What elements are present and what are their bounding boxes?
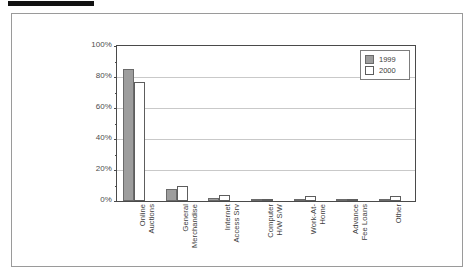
- bar: [166, 189, 177, 201]
- x-axis-category-label: Advance Fee Loans: [352, 204, 369, 279]
- bar-group: [336, 46, 358, 201]
- figure-frame: 0%20%40%60%80%100% Online AuctionsGenera…: [11, 13, 463, 267]
- x-axis-category-label: Online Auctions: [139, 204, 156, 279]
- y-axis-tick-mark: [114, 46, 117, 47]
- bar-group: [123, 46, 145, 201]
- bar-group: [208, 46, 230, 201]
- x-axis-category-label: Work-At- Home: [310, 204, 327, 279]
- legend-entry: 1999: [365, 54, 405, 65]
- bar: [347, 199, 358, 201]
- redaction-bar: [8, 1, 94, 6]
- y-axis-tick-label: 100%: [72, 41, 112, 49]
- bar-group: [294, 46, 316, 201]
- x-axis-category-label: Computer H/W S/W: [267, 204, 284, 279]
- bar: [208, 198, 219, 201]
- chart-legend: 1999 2000: [360, 50, 410, 80]
- y-axis-tick-mark: [114, 170, 117, 171]
- bar: [219, 195, 230, 201]
- y-axis-minor-tick-mark: [115, 186, 117, 187]
- bar-group: [166, 46, 188, 201]
- bar: [177, 186, 188, 202]
- bar: [262, 199, 273, 201]
- legend-swatch-1999-icon: [365, 55, 374, 64]
- y-axis-minor-tick-mark: [115, 155, 117, 156]
- y-axis-minor-tick-mark: [115, 93, 117, 94]
- y-axis-tick-mark: [114, 77, 117, 78]
- y-axis-tick-label: 40%: [72, 134, 112, 142]
- y-axis-tick-label: 20%: [72, 165, 112, 173]
- bar: [251, 199, 262, 201]
- y-axis-tick-mark: [114, 139, 117, 140]
- y-axis-minor-tick-mark: [115, 124, 117, 125]
- legend-label-1999: 1999: [379, 55, 396, 64]
- legend-swatch-2000-icon: [365, 66, 374, 75]
- y-axis-tick-label: 0%: [72, 196, 112, 204]
- bar: [390, 196, 401, 201]
- y-axis-tick-mark: [114, 108, 117, 109]
- y-axis-tick-label: 60%: [72, 103, 112, 111]
- x-axis-category-label: Other: [395, 204, 404, 279]
- legend-entry: 2000: [365, 65, 405, 76]
- x-axis-category-label: General Merchandise: [182, 204, 199, 279]
- bar: [123, 69, 134, 201]
- bar-group: [251, 46, 273, 201]
- bar: [336, 199, 347, 201]
- legend-label-2000: 2000: [379, 66, 396, 75]
- x-axis-category-labels: Online AuctionsGeneral MerchandiseIntern…: [116, 204, 416, 279]
- y-axis-tick-label: 80%: [72, 72, 112, 80]
- bar: [294, 199, 305, 201]
- bar: [379, 199, 390, 201]
- y-axis-minor-tick-mark: [115, 62, 117, 63]
- y-axis-tick-labels: 0%20%40%60%80%100%: [70, 45, 112, 202]
- bar: [305, 196, 316, 201]
- bar: [134, 82, 145, 201]
- chart-page: 0%20%40%60%80%100% Online AuctionsGenera…: [0, 0, 474, 279]
- y-axis-tick-mark: [114, 201, 117, 202]
- x-axis-category-label: Internet Access Srv: [224, 204, 241, 279]
